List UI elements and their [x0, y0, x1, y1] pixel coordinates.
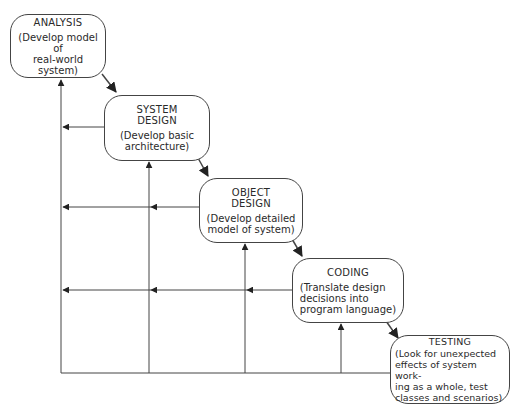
stage-description: (Look for unexpected effects of system w…: [395, 348, 505, 403]
stage-coding: CODING (Translate design decisions into …: [292, 258, 404, 323]
stage-title: OBJECT DESIGN: [231, 187, 271, 209]
stage-title: SYSTEM DESIGN: [136, 104, 177, 126]
stage-description: (Translate design decisions into program…: [300, 282, 396, 315]
stage-description: (Develop basic architecture): [120, 130, 194, 152]
stage-title: ANALYSIS: [34, 17, 83, 28]
stage-description: (Develop detailed model of system): [207, 213, 296, 235]
stage-description: (Develop model of real-world system): [15, 32, 101, 76]
stage-title: CODING: [327, 267, 369, 278]
stage-testing: TESTING (Look for unexpected effects of …: [390, 335, 510, 404]
stage-title: TESTING: [429, 336, 471, 347]
stage-object-design: OBJECT DESIGN (Develop detailed model of…: [199, 178, 303, 243]
stage-analysis: ANALYSIS (Develop model of real-world sy…: [10, 14, 106, 78]
stage-system-design: SYSTEM DESIGN (Develop basic architectur…: [104, 95, 210, 161]
